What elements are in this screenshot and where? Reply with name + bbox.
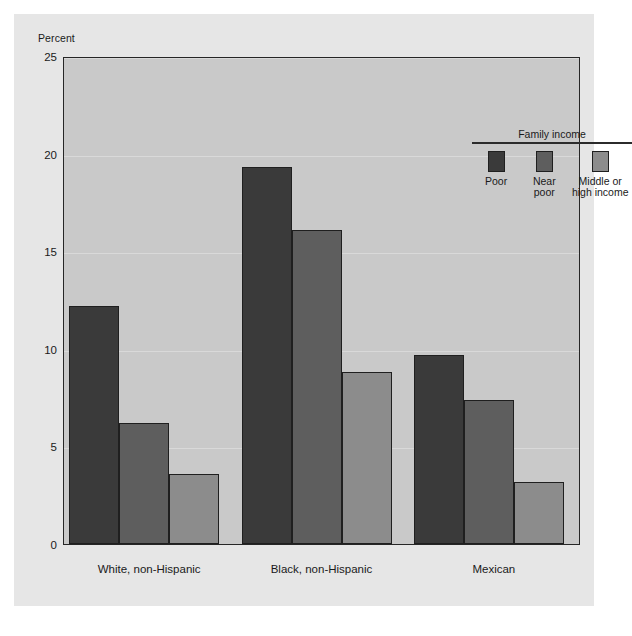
bar xyxy=(119,423,169,544)
legend-divider xyxy=(472,142,632,144)
bar xyxy=(242,167,292,544)
y-axis-tick-labels: 0510152025 xyxy=(12,57,57,545)
y-axis-tick-label: 20 xyxy=(17,149,57,161)
x-axis-category-label: Black, non-Hispanic xyxy=(271,563,373,575)
y-axis-tick-label: 25 xyxy=(17,51,57,63)
y-axis-tick-label: 15 xyxy=(17,246,57,258)
gridline xyxy=(64,58,579,59)
x-axis-category-label: Mexican xyxy=(472,563,515,575)
bar xyxy=(514,482,564,544)
bar xyxy=(464,400,514,544)
bar xyxy=(169,474,219,544)
legend-item-label: Near poor xyxy=(533,176,556,199)
bar xyxy=(342,372,392,544)
y-axis-tick-label: 0 xyxy=(17,539,57,551)
legend-swatch xyxy=(488,151,505,172)
legend: Family income PoorNear poorMiddle or hig… xyxy=(472,128,632,199)
legend-item-label: Middle or high income xyxy=(572,176,629,199)
legend-items: PoorNear poorMiddle or high income xyxy=(472,151,632,199)
plot-area: Family income PoorNear poorMiddle or hig… xyxy=(63,57,580,545)
legend-title: Family income xyxy=(472,128,632,142)
legend-swatch xyxy=(592,151,609,172)
y-axis-tick-label: 10 xyxy=(17,344,57,356)
legend-item: Poor xyxy=(472,151,520,188)
x-axis-category-label: White, non-Hispanic xyxy=(98,563,201,575)
legend-swatch xyxy=(536,151,553,172)
y-axis-title: Percent xyxy=(38,32,75,44)
bar xyxy=(414,355,464,544)
legend-item: Near poor xyxy=(520,151,568,199)
bar xyxy=(292,230,342,544)
y-axis-tick-label: 5 xyxy=(17,441,57,453)
legend-item: Middle or high income xyxy=(568,151,632,199)
legend-item-label: Poor xyxy=(485,176,507,188)
bar xyxy=(69,306,119,544)
